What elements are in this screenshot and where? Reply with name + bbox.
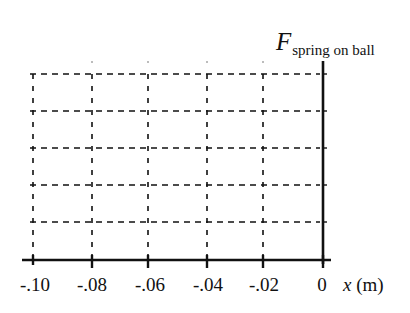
x-axis-label: x (m)	[343, 274, 384, 296]
x-tick-label: -.04	[193, 274, 223, 296]
vertical-gridlines	[33, 74, 263, 258]
x-tick-label: 0	[317, 274, 327, 296]
x-axis-ticks	[33, 255, 323, 268]
x-tick-label: -.08	[77, 274, 107, 296]
horizontal-gridlines	[30, 74, 320, 222]
y-axis-label-symbol: F	[276, 28, 291, 55]
y-axis-label-subscript: spring on ball	[292, 42, 375, 58]
grid-top-dots	[91, 61, 264, 63]
x-tick-label: -.02	[249, 274, 279, 296]
y-axis-label: Fspring on ball	[276, 28, 375, 56]
x-axis-label-unit: (m)	[351, 274, 383, 295]
x-tick-label: -.06	[135, 274, 165, 296]
x-tick-label: -.10	[20, 274, 50, 296]
